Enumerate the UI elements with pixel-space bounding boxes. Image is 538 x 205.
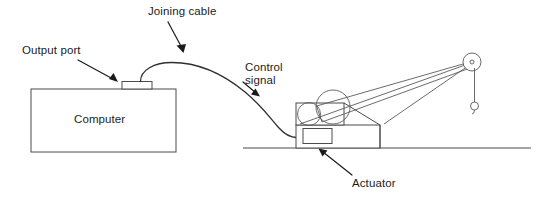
arrow-actuator [319,149,328,157]
boom-bottom-edge [322,68,470,122]
label-joining-cable: Joining cable [148,5,216,18]
arrow-output-port [109,73,118,82]
output-port-block [122,82,152,90]
hook-ring [471,102,479,110]
label-control-signal-line2: signal [245,74,276,86]
leader-actuator [323,152,352,175]
crane-housing [296,103,344,125]
actuator-box [303,129,332,144]
hoist-cable-rear [300,64,468,124]
label-control-signal-line1: Control [245,61,283,73]
diagram-svg [0,0,538,205]
label-output-port: Output port [22,44,81,57]
pulley-wheel [463,53,481,71]
label-computer: Computer [74,113,125,126]
boom-top-edge [317,62,471,106]
hook-icon [472,110,475,114]
diagram-canvas: Joining cable Output port Controlsignal … [0,0,538,205]
label-actuator: Actuator [352,177,396,190]
leader-output-port [78,60,113,79]
leader-joining-cable [168,22,182,48]
arrow-joining-cable [177,44,187,53]
label-control-signal: Controlsignal [245,61,283,87]
